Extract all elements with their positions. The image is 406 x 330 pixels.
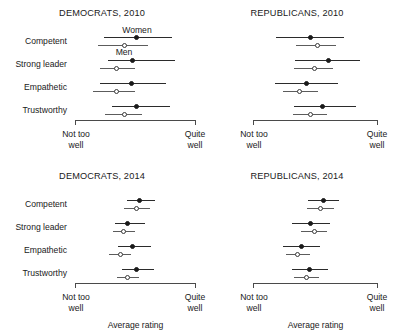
data-point-men[interactable]: [304, 275, 309, 280]
series-annotation-women: Women: [122, 25, 151, 35]
axis-label-high: Quite well: [352, 292, 402, 313]
trait-label-trustworthy: Trustworthy: [22, 105, 67, 115]
panel-title: DEMOCRATS, 2014: [22, 171, 182, 181]
axis-title: Average rating: [76, 320, 195, 330]
axis-label-low: Not too well: [229, 129, 279, 150]
panel-republicans-2014: REPUBLICANS, 2014 Not too well Quite wel…: [203, 163, 406, 325]
data-point-women[interactable]: [307, 267, 312, 272]
x-axis: Not too well Quite well: [75, 120, 196, 125]
data-point-men[interactable]: [318, 206, 323, 211]
trait-label-empathetic: Empathetic: [24, 82, 67, 92]
data-point-women[interactable]: [308, 221, 313, 226]
plot-area: Not too well Quite well: [253, 24, 378, 120]
x-axis: Not too well Quite well Average rating: [75, 283, 196, 288]
data-point-women[interactable]: [304, 81, 309, 86]
data-point-men[interactable]: [297, 89, 302, 94]
data-point-men[interactable]: [312, 66, 317, 71]
data-point-women[interactable]: [125, 221, 130, 226]
trait-label-empathetic: Empathetic: [24, 245, 67, 255]
panel-democrats-2010: DEMOCRATS, 2010 Not too well Quite well …: [0, 0, 203, 162]
plot-area: Not too well Quite well CompetentStrong …: [75, 24, 196, 120]
data-point-women[interactable]: [299, 244, 304, 249]
confidence-interval: [108, 60, 175, 61]
data-point-women[interactable]: [137, 198, 142, 203]
trait-label-competent: Competent: [25, 36, 67, 46]
confidence-interval: [294, 106, 356, 107]
data-point-women[interactable]: [130, 58, 135, 63]
x-axis: Not too well Quite well: [253, 120, 378, 125]
x-axis: Not too well Quite well Average rating: [253, 283, 378, 288]
panel-title: REPUBLICANS, 2014: [217, 171, 377, 181]
trait-label-strong-leader: Strong leader: [15, 59, 67, 69]
axis-label-low: Not too well: [51, 129, 101, 150]
data-point-men[interactable]: [308, 112, 313, 117]
data-point-women[interactable]: [320, 104, 325, 109]
data-point-women[interactable]: [130, 244, 135, 249]
series-annotation-men: Men: [116, 47, 133, 57]
confidence-interval: [115, 223, 145, 224]
data-point-men[interactable]: [114, 66, 119, 71]
data-point-men[interactable]: [121, 229, 126, 234]
data-point-women[interactable]: [134, 104, 139, 109]
confidence-interval: [112, 106, 170, 107]
data-point-women[interactable]: [321, 198, 326, 203]
data-point-men[interactable]: [125, 275, 130, 280]
axis-label-high: Quite well: [352, 129, 402, 150]
panel-title: REPUBLICANS, 2010: [217, 8, 377, 18]
panel-republicans-2010: REPUBLICANS, 2010 Not too well Quite wel…: [203, 0, 406, 162]
trait-label-strong-leader: Strong leader: [15, 222, 67, 232]
data-point-women[interactable]: [326, 58, 331, 63]
data-point-men[interactable]: [118, 252, 123, 257]
data-point-women[interactable]: [134, 267, 139, 272]
data-point-men[interactable]: [295, 252, 300, 257]
plot-area: Not too well Quite well Average rating C…: [75, 187, 196, 283]
data-point-women[interactable]: [308, 35, 313, 40]
axis-label-low: Not too well: [229, 292, 279, 313]
axis-title: Average rating: [254, 320, 377, 330]
data-point-men[interactable]: [315, 43, 320, 48]
data-point-men[interactable]: [312, 229, 317, 234]
panel-title: DEMOCRATS, 2010: [22, 8, 182, 18]
data-point-women[interactable]: [129, 81, 134, 86]
trait-label-competent: Competent: [25, 199, 67, 209]
data-point-men[interactable]: [114, 89, 119, 94]
panel-democrats-2014: DEMOCRATS, 2014 Not too well Quite well …: [0, 163, 203, 325]
data-point-women[interactable]: [134, 35, 139, 40]
data-point-men[interactable]: [122, 112, 127, 117]
data-point-men[interactable]: [134, 206, 139, 211]
trait-label-trustworthy: Trustworthy: [22, 268, 67, 278]
axis-label-low: Not too well: [51, 292, 101, 313]
plot-area: Not too well Quite well Average rating: [253, 187, 378, 283]
